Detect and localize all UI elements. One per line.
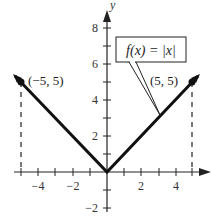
y-tick-label: −2 <box>85 201 98 215</box>
point-label-right: (5, 5) <box>150 73 178 88</box>
function-label: f(x) = |x| <box>126 43 176 59</box>
x-axis-arrow-icon <box>199 168 211 176</box>
y-tick-label: 4 <box>92 93 98 107</box>
y-tick-label: 8 <box>92 21 98 35</box>
x-tick-label: 2 <box>138 179 144 193</box>
point-label-left: (−5, 5) <box>28 73 64 88</box>
callout-pointer <box>129 62 160 115</box>
x-tick-label: −2 <box>67 179 80 193</box>
y-tick-label: 6 <box>92 57 98 71</box>
abs-value-graph: −4 −2 2 4 8 6 4 2 −2 y (−5, 5) (5, 5) f(… <box>0 0 211 218</box>
y-tick-label: 2 <box>92 129 98 143</box>
x-tick-label: −4 <box>32 179 45 193</box>
y-axis-label: y <box>109 0 116 12</box>
x-tick-label: 4 <box>173 179 179 193</box>
